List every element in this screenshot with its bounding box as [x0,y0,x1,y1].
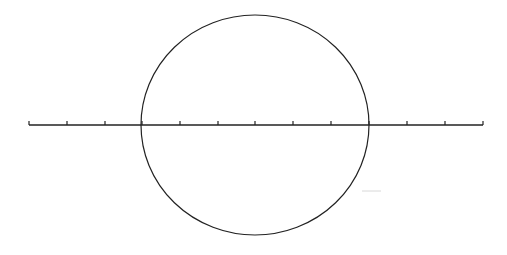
number-line [29,121,483,125]
diagram-canvas [0,0,507,255]
